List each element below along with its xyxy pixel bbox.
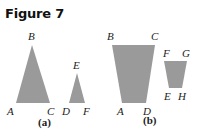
panel-b: B C A D F G E H (b): [107, 30, 190, 127]
vertex-label-c2: C: [151, 30, 159, 42]
triangle-def: [69, 73, 85, 103]
panel-caption-b: (b): [143, 114, 157, 127]
quadrilateral-abcd: [112, 45, 155, 103]
panel-a: B A C E D F (a): [6, 30, 90, 129]
vertex-label-f: F: [82, 105, 90, 117]
quadrilateral-fgeh: [164, 61, 187, 88]
vertex-label-f2: F: [162, 47, 170, 59]
vertex-label-a: A: [6, 105, 14, 117]
vertex-label-b2: B: [107, 30, 114, 42]
vertex-label-g: G: [182, 47, 190, 59]
vertex-label-e: E: [72, 59, 80, 71]
triangle-abc: [16, 45, 50, 103]
vertex-label-d: D: [61, 105, 70, 117]
vertex-label-h: H: [177, 90, 187, 102]
vertex-label-a2: A: [116, 105, 124, 117]
vertex-label-b: B: [28, 30, 35, 42]
vertex-label-e2: E: [163, 90, 171, 102]
panel-caption-a: (a): [38, 116, 51, 129]
figure-canvas: B A C E D F (a) B C A D F G E H (b): [0, 0, 202, 136]
